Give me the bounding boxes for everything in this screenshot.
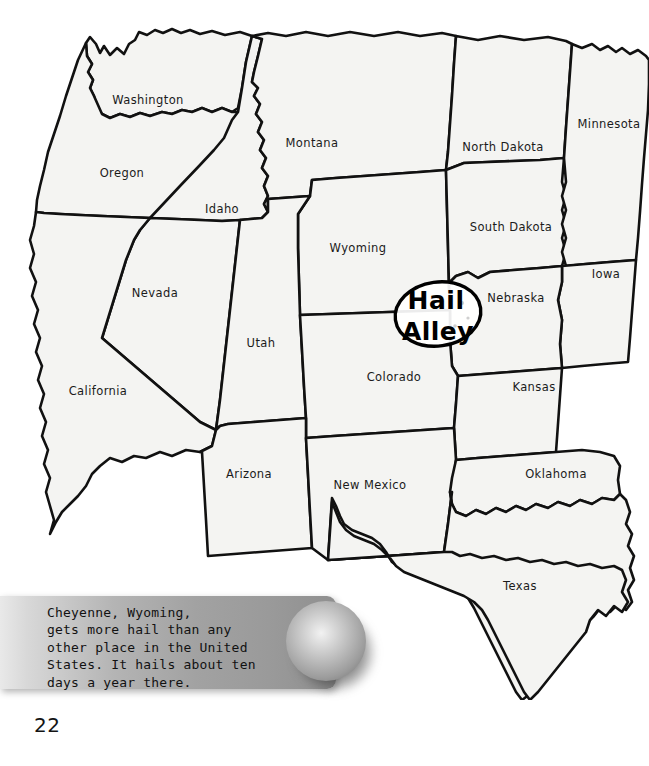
map-svg: Washington Oregon Idaho Montana Wyoming … [0,0,649,700]
hail-alley-line2: Alley [402,317,474,346]
hailstone-sphere [286,601,376,691]
state-label-kansas: Kansas [512,380,555,394]
hail-alley-line1: Hail [408,286,465,315]
state-label-california: California [69,384,128,398]
state-label-south-dakota: South Dakota [470,220,553,234]
state-label-colorado: Colorado [367,370,422,384]
state-shape-arizona[interactable] [200,418,312,556]
page-root: Washington Oregon Idaho Montana Wyoming … [0,0,649,766]
state-label-washington: Washington [112,93,184,107]
state-label-utah: Utah [247,336,276,350]
state-label-wyoming: Wyoming [330,241,387,255]
caption-text: Cheyenne, Wyoming, gets more hail than a… [47,604,297,691]
state-label-minnesota: Minnesota [578,117,641,131]
state-label-north-dakota: North Dakota [462,140,543,154]
state-label-idaho: Idaho [205,202,239,216]
page-number: 22 [34,713,60,737]
state-label-arizona: Arizona [226,467,272,481]
state-label-nevada: Nevada [132,286,178,300]
state-label-oregon: Oregon [100,166,145,180]
state-label-texas: Texas [502,579,537,593]
state-label-iowa: Iowa [592,267,620,281]
hailstone-ball [286,601,366,681]
state-shape-minnesota[interactable] [562,44,649,266]
state-label-new-mexico: New Mexico [334,478,407,492]
state-label-nebraska: Nebraska [487,291,544,305]
state-label-montana: Montana [286,136,339,150]
us-west-map: Washington Oregon Idaho Montana Wyoming … [0,0,649,700]
state-label-oklahoma: Oklahoma [525,467,587,481]
